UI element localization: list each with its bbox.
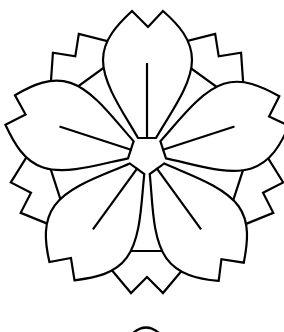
cherry-blossom-icon (0, 0, 284, 332)
partial-circle-icon (133, 328, 159, 332)
